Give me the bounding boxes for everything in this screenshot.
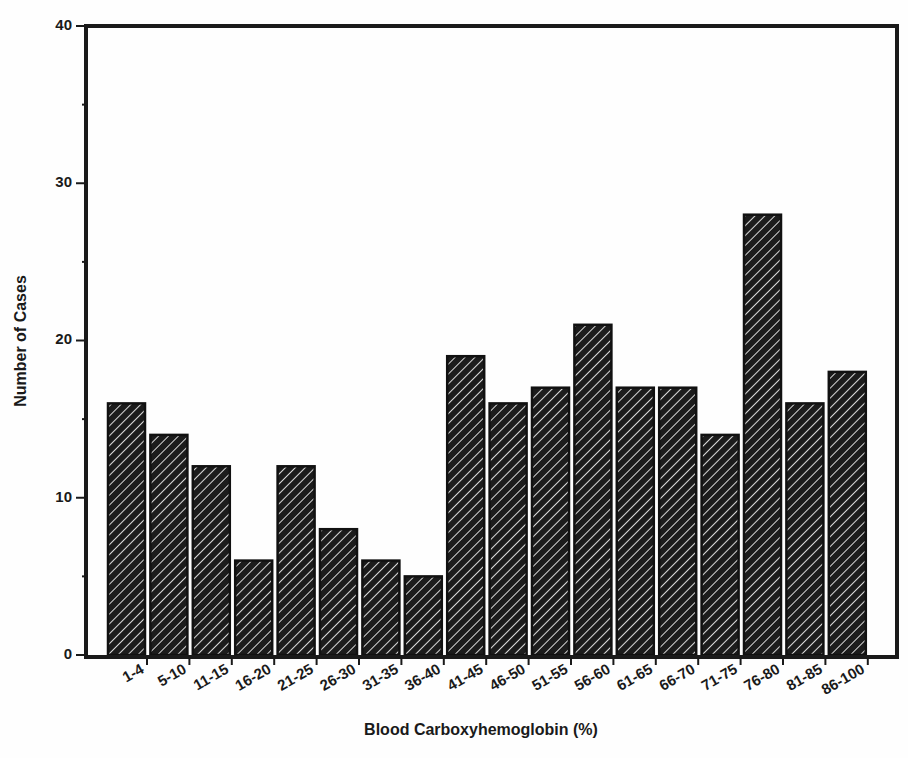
bar-21-25 — [278, 466, 315, 655]
y-axis-title: Number of Cases — [12, 275, 29, 407]
x-tick-label: 61-65 — [614, 660, 656, 694]
bar-81-85 — [786, 403, 823, 655]
bar-46-50 — [490, 403, 527, 655]
y-tick-label: 10 — [55, 488, 72, 505]
bar-1-4 — [108, 403, 145, 655]
x-tick-label: 16-20 — [232, 660, 274, 694]
x-tick-label: 36-40 — [402, 660, 444, 694]
bar-36-40 — [405, 576, 442, 655]
x-tick-label: 1-4 — [119, 660, 147, 686]
x-tick-label: 5-10 — [154, 660, 189, 690]
x-tick-label: 31-35 — [359, 660, 401, 694]
x-tick-label: 81-85 — [783, 660, 825, 694]
bar-71-75 — [702, 435, 739, 655]
y-tick-label: 40 — [55, 16, 72, 33]
x-tick-label: 86-100 — [818, 660, 867, 698]
bar-31-35 — [362, 561, 399, 655]
x-tick-label: 11-15 — [190, 660, 231, 693]
x-axis: 1-45-1011-1516-2021-2526-3031-3536-4041-… — [119, 657, 868, 698]
x-tick-label: 71-75 — [698, 660, 740, 694]
bar-61-65 — [617, 388, 654, 655]
bar-11-15 — [193, 466, 230, 655]
x-tick-label: 21-25 — [274, 660, 316, 694]
x-axis-title: Blood Carboxyhemoglobin (%) — [364, 721, 598, 738]
bar-41-45 — [447, 356, 484, 655]
y-tick-label: 0 — [64, 645, 72, 662]
bar-chart: 010203040 1-45-1011-1516-2021-2526-3031-… — [0, 0, 908, 758]
x-tick-label: 66-70 — [656, 660, 698, 694]
y-tick-label: 30 — [55, 173, 72, 190]
bar-66-70 — [659, 388, 696, 655]
y-tick-label: 20 — [55, 330, 72, 347]
bar-86-100 — [829, 372, 866, 655]
bar-51-55 — [532, 388, 569, 655]
bar-5-10 — [150, 435, 187, 655]
y-axis: 010203040 — [55, 16, 86, 662]
bar-16-20 — [235, 561, 272, 655]
x-tick-label: 51-55 — [529, 660, 571, 694]
bar-56-60 — [574, 325, 611, 655]
x-tick-label: 56-60 — [571, 660, 613, 694]
bar-76-80 — [744, 215, 781, 655]
bar-26-30 — [320, 529, 357, 655]
x-tick-label: 46-50 — [486, 660, 528, 694]
x-tick-label: 76-80 — [741, 660, 783, 694]
x-tick-label: 26-30 — [317, 660, 359, 694]
bars-group — [108, 215, 866, 655]
x-tick-label: 41-45 — [444, 660, 486, 694]
